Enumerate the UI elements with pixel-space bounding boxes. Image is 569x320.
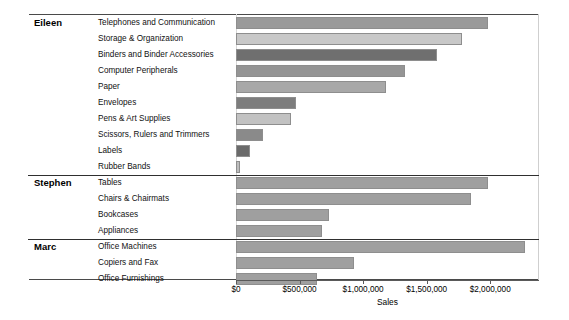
x-axis-tick-label: $500,000 <box>282 285 316 294</box>
category-label: Appliances <box>98 223 232 239</box>
category-label: Labels <box>98 143 232 159</box>
bar[interactable] <box>236 97 296 109</box>
x-axis-line <box>236 280 539 281</box>
category-label: Chairs & Chairmats <box>98 191 232 207</box>
bar[interactable] <box>236 273 317 285</box>
chart-row: Bookcases <box>0 207 569 223</box>
chart-row: Envelopes <box>0 95 569 111</box>
chart-row: Storage & Organization <box>0 31 569 47</box>
chart-row: Labels <box>0 143 569 159</box>
bar[interactable] <box>236 65 405 77</box>
bar[interactable] <box>236 193 471 205</box>
bar[interactable] <box>236 225 322 237</box>
sales-bar-chart: EileenTelephones and CommunicationStorag… <box>0 0 569 320</box>
group-separator <box>28 239 539 240</box>
bar[interactable] <box>236 161 240 173</box>
category-label: Bookcases <box>98 207 232 223</box>
x-axis-tick <box>300 280 301 284</box>
chart-row: StephenTables <box>0 175 569 191</box>
group-label-eileen: Eileen <box>34 15 100 31</box>
bar[interactable] <box>236 241 525 253</box>
category-label: Pens & Art Supplies <box>98 111 232 127</box>
category-label: Scissors, Rulers and Trimmers <box>98 127 232 143</box>
category-label: Computer Peripherals <box>98 63 232 79</box>
chart-row: EileenTelephones and Communication <box>0 15 569 31</box>
x-axis-tick <box>490 280 491 284</box>
x-axis-tick-label: $0 <box>231 285 240 294</box>
group-label-stephen: Stephen <box>34 175 100 191</box>
x-axis-tick-label: $1,500,000 <box>406 285 447 294</box>
bar[interactable] <box>236 81 386 93</box>
chart-row: MarcOffice Machines <box>0 239 569 255</box>
chart-row: Copiers and Fax <box>0 255 569 271</box>
bar[interactable] <box>236 33 462 45</box>
chart-row: Paper <box>0 79 569 95</box>
bar[interactable] <box>236 177 488 189</box>
category-label: Office Furnishings <box>98 271 232 287</box>
bar[interactable] <box>236 129 263 141</box>
category-label: Telephones and Communication <box>98 15 232 31</box>
bar[interactable] <box>236 145 250 157</box>
x-axis-tick <box>236 280 237 284</box>
category-label: Tables <box>98 175 232 191</box>
category-label: Storage & Organization <box>98 31 232 47</box>
chart-row: Appliances <box>0 223 569 239</box>
category-label: Office Machines <box>98 239 232 255</box>
chart-row: Computer Peripherals <box>0 63 569 79</box>
chart-row: Binders and Binder Accessories <box>0 47 569 63</box>
group-label-marc: Marc <box>34 239 100 255</box>
category-label: Copiers and Fax <box>98 255 232 271</box>
chart-row: Scissors, Rulers and Trimmers <box>0 127 569 143</box>
x-axis-tick-label: $2,000,000 <box>470 285 511 294</box>
category-label: Envelopes <box>98 95 232 111</box>
category-label: Paper <box>98 79 232 95</box>
chart-row: Chairs & Chairmats <box>0 191 569 207</box>
chart-row: Pens & Art Supplies <box>0 111 569 127</box>
x-axis-tick <box>363 280 364 284</box>
bar[interactable] <box>236 257 354 269</box>
x-axis-title: Sales <box>236 297 539 307</box>
x-axis-tick <box>427 280 428 284</box>
group-separator <box>28 175 539 176</box>
bar[interactable] <box>236 113 291 125</box>
bar[interactable] <box>236 17 488 29</box>
chart-row: Rubber Bands <box>0 159 569 175</box>
bar[interactable] <box>236 49 437 61</box>
x-axis-tick-label: $1,000,000 <box>343 285 384 294</box>
category-label: Rubber Bands <box>98 159 232 175</box>
bar[interactable] <box>236 209 329 221</box>
category-label: Binders and Binder Accessories <box>98 47 232 63</box>
